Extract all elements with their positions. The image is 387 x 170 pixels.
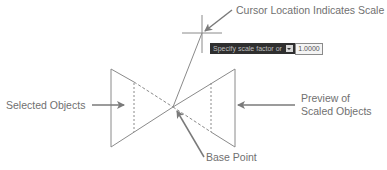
scale-diagram	[0, 0, 387, 170]
base-point-arrow	[177, 111, 204, 157]
cursor-location-label: Cursor Location Indicates Scale	[236, 4, 384, 16]
dynamic-input-prompt: Specify scale factor or	[210, 43, 296, 54]
scale-factor-input[interactable]	[295, 43, 323, 55]
prompt-text: Specify scale factor or	[213, 43, 282, 54]
selected-objects-label: Selected Objects	[6, 99, 85, 111]
cursor-callout-arrow	[205, 10, 232, 31]
preview-scaled-objects-shape	[173, 69, 235, 147]
base-point-label: Base Point	[206, 151, 257, 163]
preview-label-line1: Preview of	[301, 92, 350, 104]
preview-label-line2: Scaled Objects	[301, 105, 372, 117]
selected-objects-shape	[111, 69, 173, 147]
down-arrow-icon[interactable]	[286, 45, 293, 52]
rubber-band-line	[173, 33, 202, 107]
